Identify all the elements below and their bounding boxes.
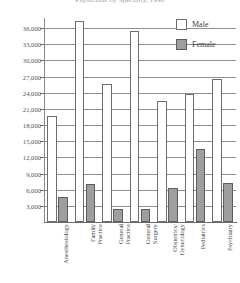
bar-female [141, 209, 151, 222]
y-axis-tick-label: 6,000 [26, 186, 41, 193]
bar-chart: Physicians by Specialty, 1998 3,0006,000… [0, 0, 240, 283]
bar-female [223, 183, 233, 222]
y-axis-tick-label: 21,000 [23, 105, 41, 112]
bar-female [196, 149, 206, 222]
bar-male [130, 31, 140, 222]
legend-item-male: Male [176, 16, 238, 33]
y-axis-tick-label: 24,000 [23, 89, 41, 96]
bar-male [157, 101, 167, 222]
bar-male [185, 94, 195, 222]
bar-group [71, 20, 98, 222]
y-axis-tick-label: 18,000 [23, 122, 41, 129]
y-axis-tick-label: 30,000 [23, 57, 41, 64]
bar-male [102, 84, 112, 222]
y-axis-tick-label: 9,000 [26, 170, 41, 177]
legend-item-female: Female [176, 36, 238, 53]
y-axis-tick-label: 33,000 [23, 41, 41, 48]
x-axis-category-label: Anesthesiology [62, 224, 69, 282]
bar-male [75, 21, 85, 222]
y-axis-tick-label: 27,000 [23, 73, 41, 80]
y-axis-tick-label: 36,000 [23, 25, 41, 32]
x-axis-line [44, 222, 237, 223]
bar-female [113, 209, 123, 222]
bar-female [86, 184, 96, 222]
bar-female [168, 188, 178, 222]
legend-swatch-male [176, 19, 187, 30]
legend-swatch-female [176, 39, 187, 50]
y-axis-labels: 3,0006,0009,00012,00015,00018,00021,0002… [0, 0, 41, 283]
x-axis-category-label: General Surgery [144, 224, 158, 282]
bar-group [126, 20, 153, 222]
legend-label-male: Male [192, 20, 208, 29]
legend-label-female: Female [192, 40, 216, 49]
bar-female [58, 197, 68, 222]
x-axis-category-label: General Practice [117, 224, 131, 282]
bar-group [99, 20, 126, 222]
y-axis-tick-label: 15,000 [23, 138, 41, 145]
x-axis-category-label: Family Practice [89, 224, 103, 282]
y-axis-tick-label: 12,000 [23, 154, 41, 161]
x-axis-category-label: Obstetrics/ Gynecology [171, 224, 185, 282]
x-axis-labels: AnesthesiologyFamily PracticeGeneral Pra… [44, 224, 236, 283]
bar-male [47, 116, 57, 222]
y-axis-tick-label: 3,000 [26, 202, 41, 209]
x-axis-category-label: Psychiatry [226, 224, 233, 282]
x-axis-category-label: Pediatrics [199, 224, 206, 282]
bar-male [212, 79, 222, 222]
chart-legend: Male Female [176, 16, 238, 56]
bar-group [44, 20, 71, 222]
